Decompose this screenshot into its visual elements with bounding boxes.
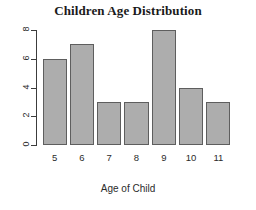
x-tick-label: 11 bbox=[206, 152, 230, 163]
x-tick-label: 7 bbox=[97, 152, 121, 163]
bar bbox=[70, 44, 94, 145]
bar bbox=[206, 102, 230, 145]
bars-layer bbox=[0, 0, 256, 210]
x-axis-title: Age of Child bbox=[0, 183, 256, 194]
bar bbox=[152, 30, 176, 145]
bar bbox=[179, 88, 203, 146]
bar-chart: Children Age Distribution 02468 56789101… bbox=[0, 0, 256, 210]
x-tick-label: 6 bbox=[70, 152, 94, 163]
x-tick-label: 9 bbox=[152, 152, 176, 163]
x-tick-label: 5 bbox=[43, 152, 67, 163]
bar bbox=[43, 59, 67, 145]
x-tick-label: 8 bbox=[124, 152, 148, 163]
bar bbox=[97, 102, 121, 145]
x-tick-label: 10 bbox=[179, 152, 203, 163]
bar bbox=[124, 102, 148, 145]
plot-area: 02468 567891011 bbox=[0, 0, 256, 210]
